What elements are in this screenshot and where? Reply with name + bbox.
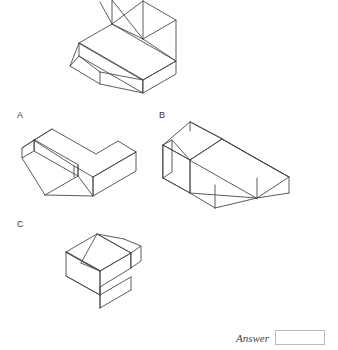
answer-row: Answer (236, 330, 325, 345)
prompt-solid (70, 0, 176, 93)
option-label-a: A (17, 110, 23, 120)
figure-stage (0, 0, 338, 350)
answer-input[interactable] (275, 330, 325, 345)
option-label-c: C (17, 219, 24, 229)
option-c-solid (66, 234, 141, 308)
answer-label: Answer (236, 332, 269, 344)
solids-illustration (0, 0, 338, 350)
option-a-solid (22, 129, 136, 196)
option-b-solid (163, 122, 289, 208)
option-label-b: B (159, 110, 165, 120)
